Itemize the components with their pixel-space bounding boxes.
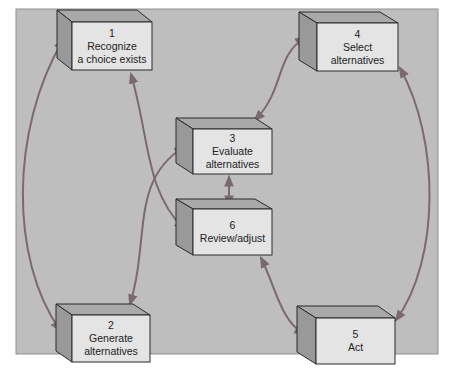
step-title-line1: Act <box>348 341 363 354</box>
step-title-line1: Recognize <box>87 40 137 53</box>
step-label-3: 3 Evaluate alternatives <box>193 129 272 174</box>
step-number: 5 <box>353 328 359 341</box>
step-number: 2 <box>108 319 114 332</box>
step-title-line1: Select <box>343 41 372 54</box>
step-label-1: 1 Recognize a choice exists <box>72 22 152 70</box>
step-label-5: 5 Act <box>316 318 395 364</box>
step-title-line2: alternatives <box>206 158 260 171</box>
step-title-line2: alternatives <box>331 54 385 67</box>
step-title-line1: Evaluate <box>212 145 253 158</box>
step-title-line1: Review/adjust <box>200 232 265 245</box>
step-label-4: 4 Select alternatives <box>317 23 398 71</box>
step-title-line2: alternatives <box>84 345 138 358</box>
decision-process-diagram: 1 Recognize a choice exists 4 Select alt… <box>0 0 450 377</box>
step-number: 1 <box>109 27 115 40</box>
step-label-2: 2 Generate alternatives <box>72 315 150 362</box>
step-title-line1: Generate <box>89 332 133 345</box>
step-number: 3 <box>230 132 236 145</box>
step-number: 4 <box>355 28 361 41</box>
step-number: 6 <box>230 219 236 232</box>
step-label-6: 6 Review/adjust <box>193 209 272 255</box>
step-title-line2: a choice exists <box>78 53 147 66</box>
